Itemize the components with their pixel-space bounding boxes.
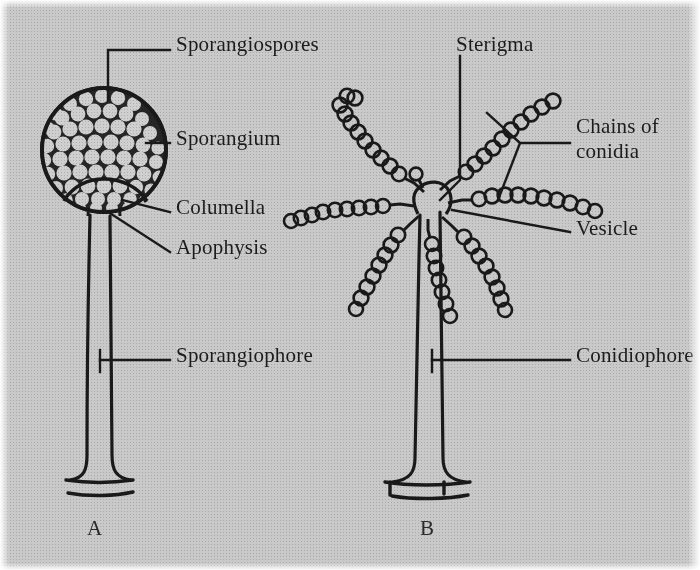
- conidia-chain-5: [349, 216, 419, 316]
- figure-container: Sporangiospores Sporangium Columella Apo…: [0, 0, 700, 570]
- leader-chains-conidia: [487, 113, 570, 143]
- leader-vesicle: [452, 210, 570, 232]
- label-sporangiospores: Sporangiospores: [176, 33, 319, 55]
- foot-cell-b: [385, 482, 470, 499]
- leader-apophysis: [108, 212, 170, 252]
- leader-chains-conidia-2: [498, 143, 520, 200]
- label-chains-of-conidia-line2: conidia: [576, 140, 639, 162]
- label-sterigma: Sterigma: [456, 33, 533, 55]
- caption-panel-b: B: [420, 516, 434, 541]
- label-vesicle: Vesicle: [576, 217, 638, 239]
- label-apophysis: Apophysis: [176, 236, 268, 258]
- foot-cell-a: [66, 480, 133, 496]
- diagram-artwork: [0, 0, 700, 570]
- panel-b-artwork: [284, 56, 602, 499]
- conidia-chain-3: [284, 199, 414, 228]
- label-sporangiophore: Sporangiophore: [176, 344, 313, 366]
- label-conidiophore: Conidiophore: [576, 344, 694, 366]
- label-columella: Columella: [176, 196, 265, 218]
- label-chains-of-conidia-line1: Chains of: [576, 115, 659, 137]
- sporangiophore-stalk: [70, 215, 131, 480]
- label-sporangium: Sporangium: [176, 127, 281, 149]
- panel-a-artwork: [37, 50, 170, 496]
- conidia-chains: [284, 89, 602, 323]
- caption-panel-a: A: [87, 516, 102, 541]
